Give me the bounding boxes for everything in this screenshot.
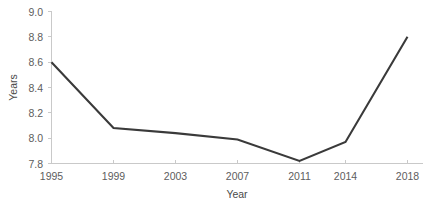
y-tick-label: 8.0	[28, 132, 43, 144]
y-tick-label: 9.0	[28, 6, 43, 18]
x-tick-label: 2003	[164, 170, 188, 182]
y-tick-label: 8.4	[28, 82, 43, 94]
y-tick-label: 8.2	[28, 107, 43, 119]
chart-canvas: 9.0 8.8 8.6 8.4 8.2 8.0 7.8 1995 1999 20…	[0, 0, 429, 207]
y-tick-marks	[48, 12, 52, 164]
x-axis-title: Year	[226, 188, 248, 200]
x-tick-labels: 1995 1999 2003 2007 2011 2014 2018	[40, 170, 420, 182]
line-chart: 9.0 8.8 8.6 8.4 8.2 8.0 7.8 1995 1999 20…	[0, 0, 429, 207]
x-tick-label: 1999	[102, 170, 126, 182]
x-tick-label: 2011	[288, 170, 311, 182]
x-tick-label: 2014	[334, 170, 358, 182]
y-tick-label: 8.6	[28, 56, 43, 68]
x-tick-label: 2007	[226, 170, 250, 182]
y-tick-label: 8.8	[28, 31, 43, 43]
x-tick-marks	[52, 160, 408, 164]
y-axis-title: Years	[7, 74, 19, 100]
y-tick-label: 7.8	[28, 158, 43, 170]
data-series-line	[52, 37, 408, 161]
x-tick-label: 2018	[396, 170, 420, 182]
x-tick-label: 1995	[40, 170, 64, 182]
y-tick-labels: 9.0 8.8 8.6 8.4 8.2 8.0 7.8	[28, 6, 43, 170]
